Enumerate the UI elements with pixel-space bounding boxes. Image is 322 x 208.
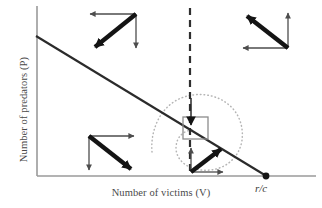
vector-cluster-upper-left — [90, 14, 136, 48]
predator-isocline-solid — [36, 36, 268, 177]
damped-spiral-trajectory — [152, 95, 243, 171]
x-axis-label: Number of victims (V) — [81, 187, 241, 198]
thick-arrow-down-right — [89, 136, 131, 169]
phase-plane-figure: Number of victims (V) Number of predator… — [0, 0, 322, 208]
vector-cluster-upper-right — [243, 13, 288, 48]
plot-canvas — [0, 0, 322, 208]
x-intercept-dot — [263, 173, 270, 180]
y-axis-label: Number of predators (P) — [18, 40, 29, 180]
thick-arrow-up-left — [247, 16, 288, 48]
x-intercept-label: r/c — [255, 182, 267, 194]
thick-arrow-down-left — [95, 14, 136, 47]
vector-cluster-lower-left — [89, 136, 134, 170]
vector-cluster-lower-right — [191, 148, 223, 172]
